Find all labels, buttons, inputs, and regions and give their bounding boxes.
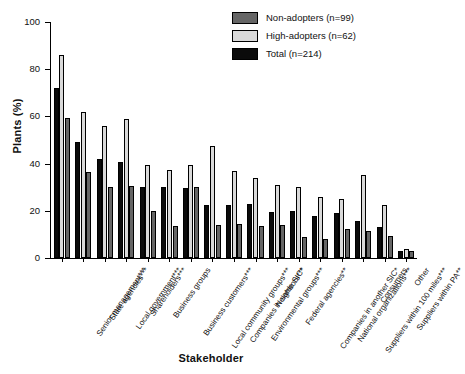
- bar-high: [339, 199, 344, 258]
- bar-non: [129, 186, 134, 258]
- bar-total: [269, 212, 274, 258]
- bar-non: [151, 211, 156, 258]
- x-axis-tick-mark: [234, 258, 235, 262]
- bar-total: [161, 187, 166, 258]
- x-axis-tick-mark: [385, 258, 386, 262]
- x-axis-tick-mark: [212, 258, 213, 262]
- x-axis-tick-mark: [191, 258, 192, 262]
- x-axis-tick-mark: [256, 258, 257, 262]
- bar-non: [259, 226, 264, 258]
- x-axis-tick-mark: [299, 258, 300, 262]
- x-axis-tick-mark: [105, 258, 106, 262]
- bar-high: [232, 171, 237, 258]
- bar-total: [75, 142, 80, 258]
- y-axis-tick-label: 80: [0, 64, 40, 74]
- y-axis-tick-label: 100: [0, 17, 40, 27]
- bar-total: [226, 205, 231, 258]
- bar-non: [86, 172, 91, 258]
- x-axis-tick-mark: [62, 258, 63, 262]
- plot-area: [51, 22, 417, 258]
- bar-high: [210, 146, 215, 258]
- bar-non: [323, 239, 328, 258]
- bar-non: [409, 251, 414, 258]
- bar-non: [194, 187, 199, 258]
- bar-non: [216, 225, 221, 258]
- bar-high: [102, 126, 107, 258]
- bar-non: [237, 224, 242, 258]
- y-axis-tick-mark: [45, 258, 50, 259]
- bar-total: [54, 88, 59, 258]
- bar-high: [81, 112, 86, 258]
- bar-high: [167, 170, 172, 259]
- bar-total: [183, 188, 188, 258]
- bar-high: [253, 178, 258, 258]
- bar-non: [388, 236, 393, 258]
- y-axis-tick-mark: [45, 116, 50, 117]
- bar-high: [361, 175, 366, 258]
- y-axis-tick-label: 60: [0, 111, 40, 121]
- bar-non: [280, 225, 285, 258]
- bar-high: [318, 197, 323, 258]
- bar-total: [398, 251, 403, 258]
- bar-non: [345, 229, 350, 259]
- x-axis-title: Stakeholder: [0, 352, 422, 364]
- bar-high: [296, 187, 301, 258]
- bar-total: [140, 187, 145, 258]
- bar-total: [204, 205, 209, 258]
- x-axis-tick-mark: [169, 258, 170, 262]
- bar-non: [65, 118, 70, 258]
- bar-non: [173, 226, 178, 258]
- bar-total: [355, 221, 360, 258]
- x-axis-tick-mark: [342, 258, 343, 262]
- x-axis-tick-mark: [320, 258, 321, 262]
- y-axis-tick-mark: [45, 69, 50, 70]
- y-axis-tick-label: 0: [0, 253, 40, 263]
- bar-non: [366, 231, 371, 258]
- x-axis-tick-mark: [406, 258, 407, 262]
- x-axis-category-label: Federal agencies**: [304, 266, 350, 327]
- bar-high: [404, 249, 409, 258]
- bar-high: [188, 165, 193, 258]
- bar-non: [108, 187, 113, 258]
- x-axis-tick-mark: [363, 258, 364, 262]
- bar-total: [118, 162, 123, 258]
- bar-high: [382, 205, 387, 258]
- y-axis-tick-mark: [45, 164, 50, 165]
- x-axis-tick-mark: [148, 258, 149, 262]
- bar-high: [145, 165, 150, 258]
- bar-high: [59, 55, 64, 258]
- x-axis-tick-mark: [83, 258, 84, 262]
- bar-total: [377, 227, 382, 258]
- y-axis-tick-mark: [45, 211, 50, 212]
- bar-high: [275, 185, 280, 258]
- y-axis-tick-label: 20: [0, 206, 40, 216]
- bar-total: [334, 213, 339, 258]
- bar-total: [312, 216, 317, 258]
- bar-non: [302, 237, 307, 258]
- bar-total: [97, 159, 102, 258]
- bar-total: [290, 211, 295, 258]
- y-axis-tick-mark: [45, 22, 50, 23]
- y-axis-tick-label: 40: [0, 159, 40, 169]
- bar-total: [247, 204, 252, 258]
- x-axis-tick-mark: [277, 258, 278, 262]
- x-axis-tick-mark: [126, 258, 127, 262]
- bar-high: [124, 119, 129, 258]
